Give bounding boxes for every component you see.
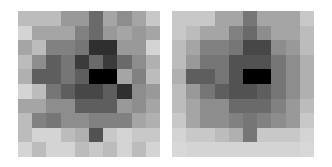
- heatmap-cell: [146, 128, 160, 143]
- heatmap-cell: [61, 11, 75, 26]
- heatmap-cell: [243, 11, 257, 26]
- heatmap-cell: [117, 11, 131, 26]
- heatmap-cell: [215, 142, 229, 157]
- heatmap-cell: [172, 84, 186, 99]
- heatmap-cell: [32, 113, 46, 128]
- heatmap-cell: [215, 128, 229, 143]
- heatmap-cell: [46, 84, 60, 99]
- heatmap-cell: [200, 84, 214, 99]
- heatmap-cell: [229, 113, 243, 128]
- heatmap-cell: [172, 11, 186, 26]
- heatmap-cell: [286, 142, 300, 157]
- heatmap-cell: [103, 11, 117, 26]
- heatmap-cell: [286, 128, 300, 143]
- heatmap-cell: [75, 55, 89, 70]
- heatmap-cell: [286, 55, 300, 70]
- heatmap-cell: [243, 26, 257, 41]
- heatmap-cell: [46, 128, 60, 143]
- heatmap-cell: [300, 55, 314, 70]
- heatmap-cell: [257, 26, 271, 41]
- heatmap-cell: [215, 113, 229, 128]
- heatmap-cell: [286, 84, 300, 99]
- heatmap-cell: [243, 142, 257, 157]
- heatmap-cell: [117, 142, 131, 157]
- heatmap-cell: [286, 99, 300, 114]
- heatmap-cell: [271, 40, 285, 55]
- heatmap-cell: [18, 11, 32, 26]
- heatmap-cell: [75, 84, 89, 99]
- heatmap-cell: [271, 26, 285, 41]
- heatmap-cell: [300, 26, 314, 41]
- heatmap-cell: [132, 26, 146, 41]
- heatmap-cell: [132, 99, 146, 114]
- heatmap-cell: [61, 40, 75, 55]
- heatmap-cell: [200, 128, 214, 143]
- heatmap-cell: [229, 84, 243, 99]
- heatmap-cell: [18, 113, 32, 128]
- heatmap-cell: [215, 84, 229, 99]
- heatmap-cell: [75, 69, 89, 84]
- heatmap-cell: [172, 40, 186, 55]
- heatmap-cell: [117, 113, 131, 128]
- heatmap-cell: [18, 142, 32, 157]
- heatmap-cell: [229, 26, 243, 41]
- heatmap-cell: [286, 11, 300, 26]
- heatmap-cell: [132, 69, 146, 84]
- heatmap-cell: [89, 11, 103, 26]
- heatmap-cell: [186, 142, 200, 157]
- heatmap-cell: [186, 55, 200, 70]
- heatmap-cell: [243, 55, 257, 70]
- heatmap-cell: [117, 40, 131, 55]
- heatmap-cell: [186, 128, 200, 143]
- heatmap-cell: [229, 11, 243, 26]
- heatmap-left: [18, 11, 160, 157]
- heatmap-cell: [132, 40, 146, 55]
- heatmap-cell: [103, 113, 117, 128]
- heatmap-cell: [271, 128, 285, 143]
- heatmap-cell: [18, 128, 32, 143]
- heatmap-cell: [32, 26, 46, 41]
- heatmap-cell: [32, 99, 46, 114]
- heatmap-cell: [172, 69, 186, 84]
- heatmap-cell: [32, 84, 46, 99]
- heatmap-cell: [200, 40, 214, 55]
- heatmap-cell: [300, 142, 314, 157]
- heatmap-cell: [103, 40, 117, 55]
- heatmap-cell: [271, 113, 285, 128]
- heatmap-cell: [257, 99, 271, 114]
- heatmap-cell: [89, 55, 103, 70]
- heatmap-cell: [103, 69, 117, 84]
- heatmap-cell: [32, 142, 46, 157]
- heatmap-cell: [132, 84, 146, 99]
- heatmap-cell: [172, 142, 186, 157]
- heatmap-cell: [132, 113, 146, 128]
- heatmap-cell: [200, 55, 214, 70]
- heatmap-cell: [200, 11, 214, 26]
- heatmap-cell: [117, 26, 131, 41]
- heatmap-cell: [186, 113, 200, 128]
- heatmap-cell: [300, 128, 314, 143]
- heatmap-cell: [229, 99, 243, 114]
- heatmap-cell: [146, 69, 160, 84]
- heatmap-cell: [229, 40, 243, 55]
- heatmap-cell: [300, 84, 314, 99]
- heatmap-cell: [75, 40, 89, 55]
- heatmap-cell: [271, 69, 285, 84]
- heatmap-cell: [75, 99, 89, 114]
- heatmap-cell: [300, 11, 314, 26]
- heatmap-cell: [300, 99, 314, 114]
- heatmap-cell: [286, 113, 300, 128]
- heatmap-cell: [18, 69, 32, 84]
- heatmap-cell: [117, 55, 131, 70]
- heatmap-cell: [300, 69, 314, 84]
- heatmap-cell: [243, 84, 257, 99]
- heatmap-cell: [32, 40, 46, 55]
- heatmap-cell: [117, 128, 131, 143]
- heatmap-cell: [229, 55, 243, 70]
- heatmap-cell: [75, 113, 89, 128]
- heatmap-cell: [18, 84, 32, 99]
- heatmap-cell: [146, 11, 160, 26]
- heatmap-cell: [257, 113, 271, 128]
- heatmap-cell: [103, 26, 117, 41]
- heatmap-cell: [271, 84, 285, 99]
